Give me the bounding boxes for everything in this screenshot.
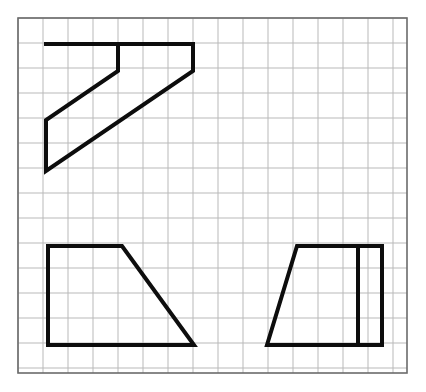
canvas-background	[0, 0, 426, 392]
figure-svg: Orthographic projection views on square …	[0, 0, 426, 392]
drawing-canvas: Orthographic projection views on square …	[0, 0, 426, 392]
